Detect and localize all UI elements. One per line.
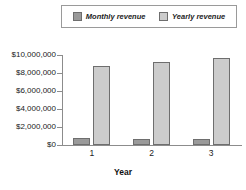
legend-label-yearly: Yearly revenue <box>172 13 225 21</box>
y-axis-tick-label: $2,000,000 <box>0 123 56 131</box>
bar-chart: Monthly revenue Yearly revenue $0$2,000,… <box>0 0 246 190</box>
x-axis-tick-label: 3 <box>191 149 231 158</box>
bar-yearly-1 <box>93 66 110 145</box>
y-axis-tick-label: $6,000,000 <box>0 87 56 95</box>
legend-label-monthly: Monthly revenue <box>86 13 146 21</box>
legend-item-monthly-revenue: Monthly revenue <box>73 12 146 21</box>
chart-legend: Monthly revenue Yearly revenue <box>61 5 237 28</box>
plot-area <box>62 55 241 145</box>
y-axis-tick-label: $10,000,000 <box>0 51 56 59</box>
bar-group <box>73 66 110 145</box>
y-axis-labels: $0$2,000,000$4,000,000$6,000,000$8,000,0… <box>0 0 56 190</box>
x-axis-tick-label: 2 <box>132 149 172 158</box>
bar-group <box>133 62 170 145</box>
legend-swatch-monthly-icon <box>73 12 82 21</box>
x-axis-tick-label: 1 <box>72 149 112 158</box>
x-axis-title: Year <box>0 168 246 177</box>
legend-item-yearly-revenue: Yearly revenue <box>159 12 225 21</box>
y-axis-tick-label: $8,000,000 <box>0 69 56 77</box>
y-axis-tick-label: $0 <box>0 141 56 149</box>
bar-monthly-1 <box>73 138 90 145</box>
y-axis-tick-label: $4,000,000 <box>0 105 56 113</box>
bar-monthly-2 <box>133 139 150 145</box>
y-axis-tick <box>57 145 62 146</box>
bar-yearly-3 <box>213 58 230 145</box>
bar-monthly-3 <box>193 139 210 145</box>
bar-yearly-2 <box>153 62 170 145</box>
x-axis-line <box>62 145 242 146</box>
legend-swatch-yearly-icon <box>159 12 168 21</box>
bar-group <box>193 58 230 145</box>
